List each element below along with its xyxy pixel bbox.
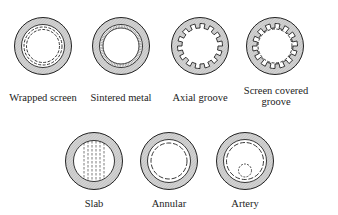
label-annular: Annular (152, 198, 186, 209)
sintered-metal-figure (93, 18, 150, 75)
slab-figure (66, 133, 123, 190)
annular-figure (141, 133, 198, 190)
label-screen-covered-groove-line1: Screen covered (244, 85, 308, 96)
label-slab: Slab (85, 198, 104, 209)
label-axial-groove: Axial groove (172, 92, 227, 103)
label-artery: Artery (231, 198, 258, 209)
artery-figure (217, 133, 274, 190)
screen-covered-groove-figure (247, 18, 304, 75)
wick-diagram (0, 0, 338, 215)
label-wrapped-screen: Wrapped screen (9, 92, 77, 103)
axial-groove-figure (172, 18, 229, 75)
label-screen-covered-groove-line2: groove (261, 96, 290, 107)
label-sintered-metal: Sintered metal (91, 92, 152, 103)
wrapped-screen-figure (15, 18, 72, 75)
